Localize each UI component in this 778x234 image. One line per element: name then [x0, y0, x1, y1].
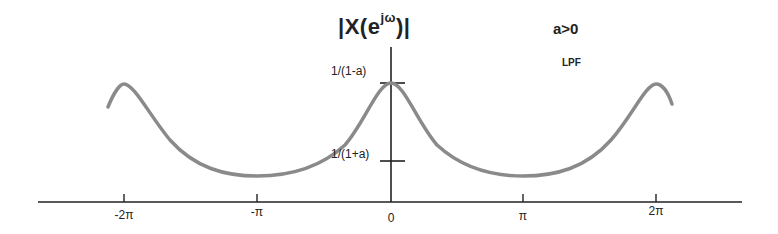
x-tick-label-zero: 0 [388, 211, 395, 225]
y-tick-label-low: 1/(1+a) [331, 147, 369, 161]
x-tick-label-2pi: 2π [649, 204, 664, 218]
x-tick-label-neg-2pi: -2π [115, 208, 134, 222]
filter-type-annotation: LPF [562, 57, 581, 68]
condition-annotation: a>0 [553, 20, 578, 37]
x-tick-label-neg-pi: -π [251, 205, 263, 219]
chart-title: |X(ejω)| [338, 14, 410, 40]
x-ticks [124, 194, 656, 202]
y-tick-label-high: 1/(1-a) [331, 64, 366, 78]
magnitude-curve [108, 83, 672, 176]
x-tick-label-pi: π [519, 209, 527, 223]
